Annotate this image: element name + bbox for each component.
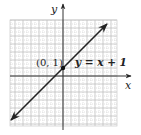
x-axis-label: x xyxy=(125,79,132,92)
y-axis-label: y xyxy=(50,3,58,16)
coordinate-plot: y x (0, 1) y = x + 1 xyxy=(0,0,141,135)
equation-label: y = x + 1 xyxy=(74,56,127,68)
point-label: (0, 1) xyxy=(36,57,63,68)
